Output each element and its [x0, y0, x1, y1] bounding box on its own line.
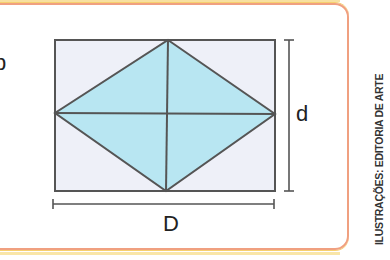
illustration-credit: ILUSTRAÇÕES: EDITORIA DE ARTE	[373, 74, 385, 245]
short-diagonal-label: d	[296, 103, 308, 125]
rhombus-in-rectangle-diagram	[0, 0, 390, 260]
long-diagonal-line	[55, 113, 275, 114]
long-diagonal-label: D	[163, 213, 179, 235]
